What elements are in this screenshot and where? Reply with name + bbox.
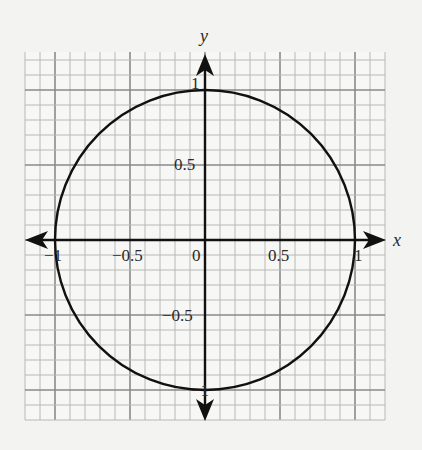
- y-tick-neg05: −0.5: [162, 306, 193, 325]
- x-tick-neg1: −1: [44, 246, 62, 265]
- y-tick-05: 0.5: [174, 155, 195, 174]
- x-axis-label: x: [392, 230, 401, 250]
- y-axis-label: y: [198, 26, 208, 46]
- y-tick-neg1: −1: [191, 381, 209, 400]
- x-tick-1: 1: [354, 246, 363, 265]
- unit-circle-chart: x y −1 −0.5 0 0.5 1 1 0.5 −0.5 −1: [0, 0, 422, 450]
- x-tick-neg05: −0.5: [112, 246, 143, 265]
- y-tick-1: 1: [191, 74, 200, 93]
- x-tick-0: 0: [192, 246, 201, 265]
- x-tick-05: 0.5: [268, 246, 289, 265]
